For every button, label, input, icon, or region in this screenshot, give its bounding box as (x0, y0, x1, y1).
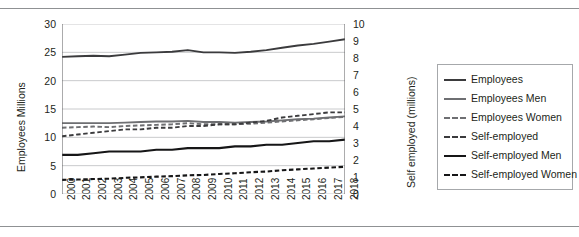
y-axis-left-tick-label: 25 (30, 47, 56, 58)
series-line-self-employed-men (62, 140, 345, 155)
legend-item-label: Self-employed (471, 131, 538, 142)
line-chart-figure: Employees Millions Self employed (millio… (0, 12, 579, 222)
y-axis-right-tick-label: 3 (353, 138, 379, 149)
legend-item[interactable]: Employees Women (444, 108, 568, 127)
y-axis-left-tick-label: 20 (30, 76, 56, 87)
y-axis-right-tick-label: 10 (353, 19, 379, 30)
y-axis-right-tick-label: 4 (353, 121, 379, 132)
plot-area (62, 24, 345, 194)
series-line-self-employed-women (62, 167, 345, 180)
bottom-horizontal-rule (0, 226, 579, 227)
legend-line-swatch-icon (444, 132, 466, 142)
x-axis-tick-label: 2018 (350, 178, 360, 200)
legend-item-label: Employees Women (471, 112, 562, 123)
plot-svg (62, 24, 345, 194)
y-axis-right-tick-label: 9 (353, 36, 379, 47)
legend-item-label: Employees (471, 74, 523, 85)
legend-line-swatch-icon (444, 94, 466, 104)
legend-item[interactable]: Self-employed Men (444, 146, 568, 165)
chart-legend: EmployeesEmployees MenEmployees WomenSel… (437, 64, 573, 190)
legend-item-label: Self-employed Men (471, 150, 561, 161)
legend-item[interactable]: Employees (444, 70, 568, 89)
y-axis-right-tick-label: 6 (353, 87, 379, 98)
series-line-employees (62, 39, 345, 57)
y-axis-left-tick-label: 15 (30, 104, 56, 115)
legend-item[interactable]: Employees Men (444, 89, 568, 108)
legend-item[interactable]: Self-employed Women (444, 165, 568, 184)
y-axis-left-tick-label: 10 (30, 132, 56, 143)
y-axis-left-tick-label: 0 (30, 189, 56, 200)
y-axis-right-tick-label: 5 (353, 104, 379, 115)
y-axis-right-tick-label: 7 (353, 70, 379, 81)
series-line-employees-men (62, 116, 345, 123)
top-horizontal-rule (0, 8, 579, 9)
legend-line-swatch-icon (444, 151, 466, 161)
y-axis-right-tick-label: 2 (353, 155, 379, 166)
legend-line-swatch-icon (444, 170, 466, 180)
legend-line-swatch-icon (444, 75, 466, 85)
y-axis-left-tick-label: 5 (30, 161, 56, 172)
y-axis-right-tick-label: 8 (353, 53, 379, 64)
legend-item[interactable]: Self-employed (444, 127, 568, 146)
legend-item-label: Employees Men (471, 93, 546, 104)
y-axis-left-tick-label: 30 (30, 19, 56, 30)
legend-line-swatch-icon (444, 113, 466, 123)
legend-item-label: Self-employed Women (471, 169, 577, 180)
chart-figure-container: Employees Millions Self employed (millio… (0, 0, 579, 237)
y-axis-right-title: Self employed (millions) (406, 77, 417, 188)
y-axis-left-title: Employees Millions (16, 82, 27, 172)
series-line-self-employed (62, 112, 345, 136)
